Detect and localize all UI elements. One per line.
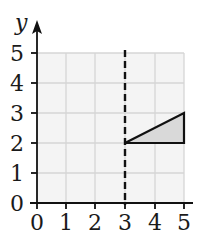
x-tick-labels: 0 1 2 3 4 5 [30,210,191,233]
y-tick-label: 0 [10,191,24,216]
coordinate-grid-diagram: y 5 4 3 2 1 0 0 1 2 3 4 5 [0,0,203,233]
y-tick-label: 3 [10,101,24,126]
x-tick-label: 4 [148,210,162,233]
y-tick-label: 4 [10,71,24,96]
y-axis-label: y [14,10,28,35]
x-tick-label: 3 [118,210,132,233]
y-tick-label: 1 [10,161,24,186]
y-tick-label: 2 [10,131,24,156]
x-tick-label: 1 [59,210,73,233]
x-tick-label: 0 [30,210,44,233]
x-tick-label: 2 [88,210,102,233]
x-tick-label: 5 [177,210,191,233]
y-tick-label: 5 [10,41,24,66]
y-tick-labels: 5 4 3 2 1 0 [10,41,24,216]
